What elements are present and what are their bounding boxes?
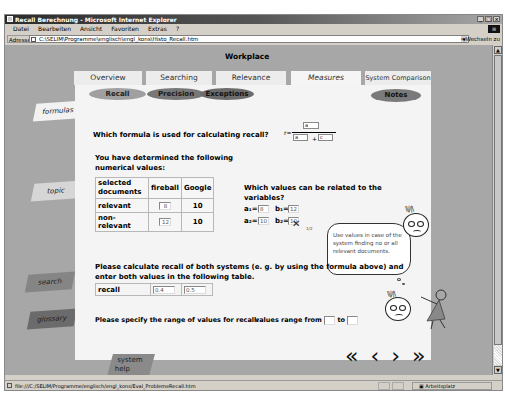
row-label: relevant (96, 199, 149, 213)
tooltip-pager: 1/2 (306, 226, 312, 231)
formula-numerator-input[interactable]: a (303, 122, 319, 129)
menu-bearbeiten[interactable]: Bearbeiten (38, 24, 71, 33)
range-from-label: values range from (255, 316, 322, 324)
tab-searching[interactable]: Searching (146, 71, 212, 85)
formula-prefix: r= (284, 129, 292, 136)
page-navigation: « ‹ › » (345, 345, 426, 367)
menu-ansicht[interactable]: Ansicht (80, 24, 102, 33)
status-url: file:///C:/SELIM/Programme/englisch/engl… (15, 383, 196, 389)
intro-text: You have determined the following numeri… (95, 153, 245, 173)
google-nonrelevant-value: 10 (181, 213, 214, 232)
row-label: non-relevant (96, 213, 149, 232)
first-page-icon[interactable]: « (345, 345, 358, 367)
notes-button[interactable]: Notes (371, 89, 421, 102)
close-button[interactable]: × (493, 16, 500, 22)
menu-datei[interactable]: Datei (13, 24, 29, 33)
subtab-precision[interactable]: Precision (147, 88, 205, 100)
go-label: Wechseln zu (466, 36, 500, 42)
subtab-recall[interactable]: Recall (89, 88, 146, 100)
range-form: values range from to (255, 316, 358, 325)
menu-bar: Datei Bearbeiten Ansicht Favoriten Extra… (5, 24, 502, 33)
worried-face-icon (403, 213, 429, 237)
hair-decoration: \\|/|\ (405, 205, 413, 213)
vertical-scrollbar[interactable]: ▲ ▼ (492, 45, 502, 375)
scroll-up-icon[interactable]: ▲ (494, 46, 502, 54)
go-button[interactable]: ⇨Wechseln zu (461, 35, 500, 43)
b1-input[interactable]: 12 (288, 205, 299, 213)
security-zone: ▣ Arbeitsplatz (412, 382, 492, 390)
browser-window: Recall Berechnung - Microsoft Internet E… (4, 14, 503, 391)
nav-glossary[interactable]: glossary (27, 308, 77, 329)
page-status-icon (7, 383, 12, 388)
a1-input[interactable]: 8 (258, 205, 269, 213)
menu-favoriten[interactable]: Favoriten (111, 24, 139, 33)
running-figure-icon (413, 287, 453, 332)
range-from-input[interactable] (324, 316, 335, 325)
tab-relevance[interactable]: Relevance (216, 71, 286, 85)
a2-input[interactable]: 10 (258, 217, 269, 225)
subtab-exceptions[interactable]: Exceptions (200, 88, 254, 100)
scroll-down-icon[interactable]: ▼ (494, 366, 502, 374)
ie-icon (7, 16, 13, 22)
scroll-thumb[interactable] (494, 55, 502, 345)
table-row: non-relevant 12 10 (96, 213, 214, 232)
minimize-button[interactable]: _ (477, 16, 484, 22)
header-selected-documents: selected documents (96, 178, 149, 199)
address-input[interactable]: C:\SELIM\Programme\englisch\engl_kons\Hi… (29, 35, 469, 43)
status-segment (392, 382, 404, 390)
b2-label: b₂= (275, 217, 289, 225)
worried-face-icon (385, 297, 411, 321)
question-variables: Which values can be related to the varia… (244, 183, 394, 203)
status-segment (378, 382, 390, 390)
range-to-label: to (337, 316, 345, 324)
tab-overview[interactable]: Overview (74, 71, 142, 85)
header-google: Google (181, 178, 214, 199)
a2-label: a₂= (244, 217, 258, 225)
zone-label: Arbeitsplatz (425, 383, 455, 389)
values-table: selected documents fireball Google relev… (95, 177, 214, 232)
address-bar: Adresse C:\SELIM\Programme\englisch\engl… (5, 34, 502, 44)
status-bar: file:///C:/SELIM/Programme/englisch/engl… (5, 380, 502, 390)
question-range: Please specify the range of values for r… (95, 316, 259, 324)
a1-label: a₁= (244, 205, 258, 213)
range-to-input[interactable] (347, 316, 358, 325)
tooltip-text: Use values in case of the system finding… (333, 232, 402, 254)
tab-measures[interactable]: Measures (291, 71, 361, 85)
last-page-icon[interactable]: » (412, 345, 425, 367)
nav-search[interactable]: search (25, 271, 75, 292)
scroll-track[interactable] (494, 345, 502, 365)
b1-label: b₁= (275, 205, 289, 213)
content-panel: Recall Precision Exceptions Notes Which … (75, 85, 431, 360)
fraction-line (292, 132, 336, 133)
system-help-button[interactable]: system help (107, 354, 155, 375)
formula-denominator-left-input[interactable]: a (293, 134, 308, 141)
windows-logo-icon: ⊞ (488, 25, 500, 33)
bubble-trail-dot (402, 283, 405, 285)
question-formula: Which formula is used for calculating re… (93, 131, 269, 139)
fireball-relevant-input[interactable]: 8 (159, 202, 171, 210)
formula-builder: r= a a + c (284, 122, 339, 144)
page-icon (31, 37, 36, 42)
recall-fireball-input[interactable]: 0.4 (153, 286, 175, 294)
close-tooltip-icon[interactable]: ✕ (292, 218, 300, 229)
nav-topic[interactable]: topic (31, 180, 81, 201)
formula-denominator-right-input[interactable]: c (318, 134, 333, 141)
system-help-line1: system (117, 356, 147, 365)
maximize-button[interactable]: □ (485, 16, 492, 22)
next-page-icon[interactable]: › (391, 345, 400, 367)
address-url: C:\SELIM\Programme\englisch\engl_kons\Hi… (39, 36, 198, 42)
fireball-nonrelevant-input[interactable]: 12 (159, 218, 171, 226)
previous-page-icon[interactable]: ‹ (370, 345, 379, 367)
window-title: Recall Berechnung - Microsoft Internet E… (15, 16, 177, 23)
tab-system-comparison[interactable]: System Comparison (365, 71, 431, 85)
recall-google-input[interactable]: 0.5 (184, 286, 206, 294)
menu-help[interactable]: ? (176, 24, 179, 33)
table-row: relevant 8 10 (96, 199, 214, 213)
header-fireball: fireball (149, 178, 182, 199)
system-help-line2: help (115, 365, 145, 374)
title-bar: Recall Berechnung - Microsoft Internet E… (5, 15, 502, 24)
formula-operator: + (312, 135, 317, 142)
page-viewport: Workplace Overview Searching Relevance M… (5, 45, 492, 375)
table-row: recall 0.4 0.5 (96, 284, 213, 296)
menu-extras[interactable]: Extras (148, 24, 167, 33)
